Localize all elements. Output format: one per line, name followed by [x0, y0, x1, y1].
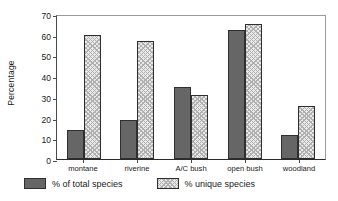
plot-area: 010203040506070	[56, 15, 326, 160]
y-axis-tick-mark	[53, 57, 57, 58]
y-axis-tick-mark	[53, 78, 57, 79]
x-axis-tick-group: open bush	[228, 160, 262, 176]
x-axis-tick-mark	[191, 160, 192, 163]
y-axis-title-text: Percentage	[6, 60, 16, 105]
y-axis-title: Percentage	[2, 0, 20, 165]
x-axis-tick-group: A/C bush	[174, 160, 208, 176]
x-axis-tick-mark	[299, 160, 300, 163]
y-axis-tick-mark	[53, 16, 57, 17]
x-axis-tick-label: open bush	[227, 164, 262, 173]
legend-swatch-total-species-icon	[24, 178, 46, 189]
y-axis-tick-label: 30	[42, 94, 51, 104]
x-axis-tick-label: riverine	[125, 164, 150, 173]
bar-unique-species	[298, 106, 315, 159]
bar-unique-species	[137, 41, 154, 159]
y-axis-tick-mark	[53, 99, 57, 100]
y-axis-tick-mark	[53, 140, 57, 141]
x-axis-tick-group: montane	[66, 160, 100, 176]
legend-label-unique-species: % unique species	[185, 179, 256, 189]
chart-legend: % of total species % unique species	[24, 178, 324, 189]
x-axis-tick-label: A/C bush	[175, 164, 206, 173]
bar-group	[67, 16, 101, 159]
bar-group	[228, 16, 262, 159]
bar-total-species	[228, 30, 245, 159]
x-axis-tick-mark	[245, 160, 246, 163]
x-axis-ticks: montaneriverineA/C bushopen bushwoodland	[56, 160, 326, 176]
legend-item-unique-species: % unique species	[157, 178, 256, 189]
bar-unique-species	[84, 35, 101, 159]
y-axis-tick-label: 10	[42, 135, 51, 145]
y-axis-tick-label: 20	[42, 115, 51, 125]
bar-total-species	[174, 87, 191, 160]
y-axis-tick-label: 70	[42, 11, 51, 21]
bar-group	[120, 16, 154, 159]
y-axis-tick-label: 0	[46, 156, 51, 166]
bar-groups	[57, 16, 325, 159]
y-axis-tick-label: 50	[42, 52, 51, 62]
x-axis-tick-label: montane	[68, 164, 98, 173]
legend-swatch-unique-species-icon	[157, 178, 179, 189]
bar-chart: Percentage 010203040506070 montaneriveri…	[0, 0, 338, 201]
y-axis-tick-mark	[53, 120, 57, 121]
bar-total-species	[120, 120, 137, 159]
x-axis-tick-mark	[83, 160, 84, 163]
x-axis-tick-group: riverine	[120, 160, 154, 176]
x-axis-tick-group: woodland	[282, 160, 316, 176]
legend-item-total-species: % of total species	[24, 178, 123, 189]
x-axis-tick-label: woodland	[283, 164, 316, 173]
bar-group	[281, 16, 315, 159]
bar-total-species	[67, 130, 84, 159]
bar-total-species	[281, 135, 298, 159]
y-axis-tick-label: 60	[42, 32, 51, 42]
x-axis-tick-mark	[137, 160, 138, 163]
legend-label-total-species: % of total species	[52, 179, 123, 189]
y-axis-tick-mark	[53, 37, 57, 38]
y-axis-tick-label: 40	[42, 73, 51, 83]
bar-unique-species	[245, 24, 262, 159]
bar-unique-species	[191, 95, 208, 159]
bar-group	[174, 16, 208, 159]
